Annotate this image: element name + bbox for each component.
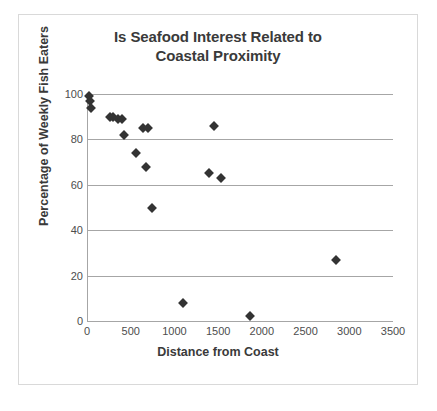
- gridline: [87, 185, 393, 186]
- scatter-point: [119, 130, 129, 140]
- x-tick-label: 0: [84, 325, 90, 337]
- x-tick-label: 2000: [250, 325, 274, 337]
- scatter-point: [143, 123, 153, 133]
- scatter-point: [178, 298, 188, 308]
- gridline: [87, 276, 393, 277]
- y-tick-label: 0: [43, 315, 83, 327]
- x-axis-tick-labels: 0500100015002000250030003500: [87, 325, 393, 341]
- chart-title-line-1: Is Seafood Interest Related to: [19, 27, 417, 46]
- gridline: [87, 230, 393, 231]
- chart-card: Is Seafood Interest Related to Coastal P…: [18, 14, 418, 385]
- scatter-point: [209, 121, 219, 131]
- scatter-point: [246, 312, 256, 322]
- x-tick-label: 3500: [381, 325, 405, 337]
- scatter-point: [204, 168, 214, 178]
- chart-title: Is Seafood Interest Related to Coastal P…: [19, 27, 417, 65]
- y-tick-label: 60: [43, 179, 83, 191]
- chart-title-line-2: Coastal Proximity: [19, 46, 417, 65]
- gridline: [87, 94, 393, 95]
- x-tick-label: 500: [122, 325, 140, 337]
- scatter-point: [147, 203, 157, 213]
- gridline: [87, 139, 393, 140]
- x-tick-label: 2500: [293, 325, 317, 337]
- x-tick-label: 3000: [337, 325, 361, 337]
- y-tick-label: 100: [43, 88, 83, 100]
- x-axis-label: Distance from Coast: [19, 345, 417, 359]
- x-tick-label: 1000: [162, 325, 186, 337]
- y-tick-label: 80: [43, 133, 83, 145]
- y-tick-label: 20: [43, 270, 83, 282]
- x-tick-label: 1500: [206, 325, 230, 337]
- scatter-point: [141, 162, 151, 172]
- scatter-point: [331, 255, 341, 265]
- gridline: [87, 321, 393, 322]
- scatter-point: [131, 148, 141, 158]
- plot-area: [87, 94, 393, 321]
- y-axis-tick-labels: 020406080100: [39, 94, 83, 321]
- y-tick-label: 40: [43, 224, 83, 236]
- scatter-point: [216, 173, 226, 183]
